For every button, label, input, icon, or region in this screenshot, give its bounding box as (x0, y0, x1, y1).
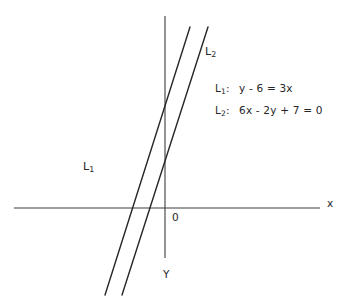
equation-l2: L2:6x - 2y + 7 = 0 (215, 105, 323, 117)
line-label-l1: L1 (83, 161, 94, 174)
equation-l1: L1:y - 6 = 3x (215, 83, 293, 95)
equation-l2-text: 6x - 2y + 7 = 0 (239, 105, 323, 116)
equation-l1-text: y - 6 = 3x (239, 83, 293, 94)
line-label-l1-subscript: 1 (89, 165, 94, 174)
x-axis-label: x (327, 198, 333, 209)
origin-label: 0 (172, 212, 179, 223)
line-label-l2-subscript: 2 (211, 50, 216, 59)
equation-l2-separator: : (226, 104, 230, 116)
line-label-l2: L2 (205, 46, 216, 59)
y-axis-label: Y (163, 269, 169, 280)
equation-l1-separator: : (226, 82, 230, 94)
graph-canvas (0, 0, 349, 305)
line-l1 (105, 27, 190, 295)
equation-l2-label: L2: (215, 105, 239, 117)
line-graph-figure: x Y 0 L1 L2 L1:y - 6 = 3x L2:6x - 2y + 7… (0, 0, 349, 305)
equation-l1-label: L1: (215, 83, 239, 95)
